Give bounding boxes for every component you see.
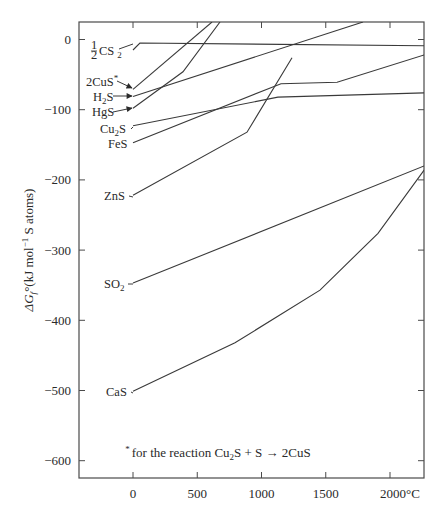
y-axis-label: ΔGf°(kJ mol−1 S atoms)	[20, 189, 38, 313]
plot-border	[79, 22, 424, 478]
series-label-zns: ZnS	[104, 189, 125, 203]
series-label-cu: Cu2S	[100, 122, 126, 138]
series-label-h: H2S	[93, 90, 114, 106]
y-tick-label: 0	[65, 32, 72, 47]
x-tick-label: 500	[188, 486, 208, 501]
y-axis-title: ΔGf°(kJ mol−1 S atoms)	[20, 189, 38, 313]
x-tick-label: 1000	[249, 486, 275, 501]
series-labels: CS2122CuS*H2SHgSCu2SFeSZnSSO2CaS	[86, 38, 133, 399]
x-tick-label: 1500	[313, 486, 339, 501]
series-lines	[133, 22, 424, 391]
chart: 0−100−200−300−400−500−600050010001500200…	[0, 0, 445, 517]
series-line-so	[133, 166, 424, 283]
fraction-denominator: 2	[91, 48, 97, 62]
arrow-icon	[113, 108, 132, 112]
series-label-cs: CS2	[99, 44, 122, 60]
series-label-so: SO2	[104, 277, 124, 293]
arrow-icon	[117, 81, 132, 88]
series-line-fes	[133, 55, 424, 143]
y-tick-label: −500	[44, 383, 71, 398]
series-line-zns	[133, 58, 292, 196]
y-tick-label: −200	[44, 172, 71, 187]
x-tick-label: 2000°C	[380, 486, 420, 501]
series-label-fes: FeS	[108, 137, 128, 151]
y-tick-label: −300	[44, 243, 71, 258]
series-label-2cus: 2CuS*	[86, 73, 119, 89]
series-line-hgs	[133, 22, 220, 108]
series-line-cu	[133, 93, 424, 126]
footnote-text: *for the reaction Cu2S + S → 2CuS	[125, 444, 311, 462]
series-label-cas: CaS	[106, 385, 127, 399]
footnote: *for the reaction Cu2S + S → 2CuS	[125, 444, 311, 462]
x-tick-label: 0	[130, 486, 137, 501]
plot-frame	[79, 22, 424, 478]
series-label-hgs: HgS	[92, 105, 114, 119]
y-tick-label: −400	[44, 313, 71, 328]
series-line-cas	[133, 170, 424, 391]
y-tick-label: −100	[44, 102, 71, 117]
y-tick-label: −600	[44, 453, 71, 468]
